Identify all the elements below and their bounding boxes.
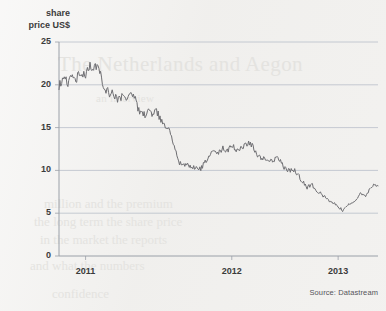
source-note: Source: Datastream	[310, 288, 379, 297]
y-tick-label: 0	[29, 250, 51, 260]
x-axis-ticks	[86, 256, 339, 260]
y-tick-label: 5	[29, 207, 51, 217]
y-tick-label: 10	[29, 164, 51, 174]
x-tick-label: 2011	[66, 266, 106, 276]
x-tick-label: 2013	[318, 266, 358, 276]
plot-area	[0, 0, 386, 311]
x-tick-label: 2012	[212, 266, 252, 276]
y-tick-label: 25	[29, 36, 51, 46]
y-tick-label: 15	[29, 122, 51, 132]
gridlines	[55, 42, 378, 256]
y-tick-label: 20	[29, 79, 51, 89]
share-price-chart: share price US$ 0510152025 201120122013 …	[0, 0, 386, 311]
